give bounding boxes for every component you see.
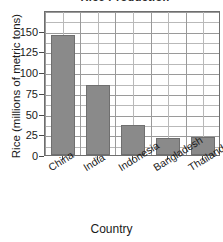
x-axis-title: Country — [0, 222, 223, 236]
x-tick-label-india: India — [81, 151, 107, 173]
x-tick-label-china: China — [46, 148, 76, 173]
x-axis-tick-labels: ChinaIndiaIndonesiaBangladeshThailand — [0, 0, 223, 242]
rice-production-bar-chart: Rice Production Rice (millions of metric… — [0, 0, 223, 242]
